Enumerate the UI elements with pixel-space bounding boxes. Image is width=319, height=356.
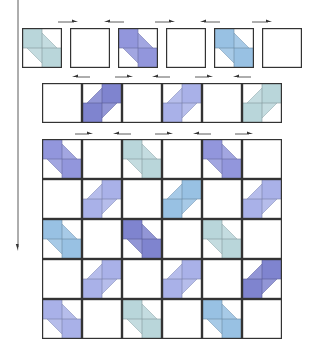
second-row-tile-5 — [202, 83, 242, 123]
diagonal-down-tile-icon — [202, 299, 242, 339]
arrow-right-icon — [115, 74, 133, 80]
diagonal-down-tile-icon — [122, 219, 162, 259]
diagonal-down-tile-icon — [42, 219, 82, 259]
diagonal-up-tile-icon — [82, 179, 122, 219]
grid-tile-r3-c6 — [242, 219, 282, 259]
top-row-tile-6 — [262, 28, 302, 68]
grid-tile-r2-c3 — [122, 179, 162, 219]
arrow-right-icon — [155, 19, 175, 25]
arrow-right-icon — [75, 131, 93, 137]
diagonal-up-tile-icon — [82, 259, 122, 299]
arrow-left-icon — [233, 74, 251, 80]
grid-tile-r5-c5 — [202, 299, 242, 339]
second-row-tile-4 — [162, 83, 202, 123]
grid-tile-r1-c3 — [122, 139, 162, 179]
empty-square-icon — [122, 83, 162, 123]
grid-tile-r5-c1 — [42, 299, 82, 339]
arrow-left-icon — [72, 74, 90, 80]
grid-tile-r5-c3 — [122, 299, 162, 339]
grid-tile-r2-c1 — [42, 179, 82, 219]
grid-tile-r1-c4 — [162, 139, 202, 179]
second-row-arrow-5 — [233, 74, 251, 80]
grid-tile-r4-c2 — [82, 259, 122, 299]
grid-tile-r3-c2 — [82, 219, 122, 259]
arrow-down-icon — [15, 0, 21, 251]
top-row-tile-1 — [22, 28, 62, 68]
arrow-right-icon — [252, 19, 272, 25]
second-row-arrow-4 — [195, 74, 213, 80]
grid-tile-r3-c4 — [162, 219, 202, 259]
arrow-left-icon — [113, 131, 131, 137]
second-row-arrow-1 — [72, 74, 90, 80]
empty-square-icon — [42, 179, 82, 219]
empty-square-icon — [162, 139, 202, 179]
grid-tile-r5-c2 — [82, 299, 122, 339]
diagonal-down-tile-icon — [118, 28, 158, 68]
grid-arrow-5 — [235, 131, 253, 137]
top-row-arrow-3 — [155, 19, 175, 25]
empty-square-icon — [42, 83, 82, 123]
empty-square-icon — [82, 139, 122, 179]
empty-square-icon — [82, 299, 122, 339]
arrow-left-icon — [200, 19, 220, 25]
diagonal-up-tile-icon — [82, 83, 122, 123]
grid-arrow-4 — [193, 131, 211, 137]
arrow-right-icon — [58, 19, 78, 25]
grid-tile-r1-c1 — [42, 139, 82, 179]
grid-tile-r1-c2 — [82, 139, 122, 179]
top-row-tile-4 — [166, 28, 206, 68]
empty-square-icon — [122, 259, 162, 299]
top-row-arrow-2 — [104, 19, 124, 25]
grid-tile-r2-c5 — [202, 179, 242, 219]
empty-square-icon — [162, 299, 202, 339]
diagonal-down-tile-icon — [214, 28, 254, 68]
second-row-tile-3 — [122, 83, 162, 123]
diagonal-down-tile-icon — [202, 219, 242, 259]
grid-arrow-2 — [113, 131, 131, 137]
diagonal-up-tile-icon — [242, 179, 282, 219]
second-row-tile-1 — [42, 83, 82, 123]
second-row-arrow-3 — [152, 74, 170, 80]
second-row-tile-6 — [242, 83, 282, 123]
grid-tile-r4-c1 — [42, 259, 82, 299]
grid-tile-r4-c4 — [162, 259, 202, 299]
arrow-right-icon — [235, 131, 253, 137]
grid-tile-r4-c5 — [202, 259, 242, 299]
grid-tile-r2-c6 — [242, 179, 282, 219]
diagonal-up-tile-icon — [242, 83, 282, 123]
second-row-tile-2 — [82, 83, 122, 123]
diagonal-up-tile-icon — [162, 179, 202, 219]
diagonal-down-tile-icon — [202, 139, 242, 179]
diagonal-down-tile-icon — [122, 139, 162, 179]
grid-tile-r3-c5 — [202, 219, 242, 259]
diagonal-down-tile-icon — [122, 299, 162, 339]
empty-square-icon — [202, 83, 242, 123]
top-row-arrow-4 — [200, 19, 220, 25]
arrow-right-icon — [195, 74, 213, 80]
top-row-tile-2 — [70, 28, 110, 68]
diagonal-up-tile-icon — [162, 83, 202, 123]
top-row-arrow-5 — [252, 19, 272, 25]
grid-tile-r3-c1 — [42, 219, 82, 259]
empty-square-icon — [82, 219, 122, 259]
arrow-right-icon — [155, 131, 173, 137]
empty-square-icon — [242, 139, 282, 179]
grid-arrow-1 — [75, 131, 93, 137]
empty-square-icon — [262, 28, 302, 68]
empty-square-icon — [42, 259, 82, 299]
empty-square-icon — [162, 219, 202, 259]
grid-tile-r1-c5 — [202, 139, 242, 179]
arrow-left-icon — [152, 74, 170, 80]
grid-tile-r2-c4 — [162, 179, 202, 219]
top-row-arrow-1 — [58, 19, 78, 25]
top-row-tile-3 — [118, 28, 158, 68]
grid-tile-r3-c3 — [122, 219, 162, 259]
diagonal-down-tile-icon — [42, 139, 82, 179]
diagonal-up-tile-icon — [242, 259, 282, 299]
empty-square-icon — [122, 179, 162, 219]
arrow-left-icon — [104, 19, 124, 25]
diagonal-down-tile-icon — [42, 299, 82, 339]
grid-tile-r4-c3 — [122, 259, 162, 299]
empty-square-icon — [242, 219, 282, 259]
grid-arrow-3 — [155, 131, 173, 137]
